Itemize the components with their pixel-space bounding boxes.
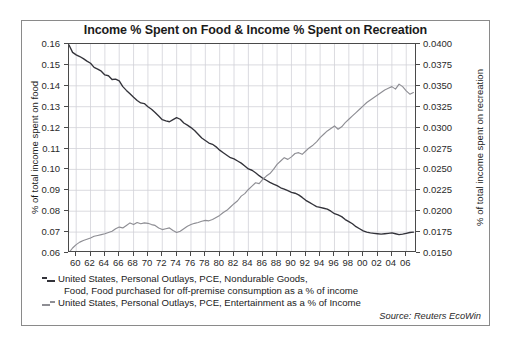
x-axis-tick-label: 06 (400, 257, 411, 268)
x-axis-tick-label: 62 (84, 257, 95, 268)
x-axis-tick (133, 252, 134, 256)
y-axis-left-tick (64, 252, 68, 253)
y-axis-left-tick-label: 0.10 (42, 163, 61, 174)
y-axis-right-title: % of total income spent on recreation (472, 43, 486, 252)
x-axis-tick-label: 02 (371, 257, 382, 268)
x-axis-tick (75, 252, 76, 256)
y-axis-left-tick (64, 231, 68, 232)
x-axis-tick-label: 98 (343, 257, 354, 268)
y-axis-right-tick (416, 148, 420, 149)
legend-swatch-food-icon (42, 274, 55, 286)
y-axis-right-tick (416, 168, 420, 169)
y-axis-left-tick-label: 0.13 (42, 100, 61, 111)
y-axis-left-tick-label: 0.06 (42, 247, 61, 258)
y-axis-left-tick-label: 0.11 (42, 142, 60, 153)
y-axis-right-tick (416, 64, 420, 65)
plot-area (68, 43, 416, 252)
y-axis-right-tick (416, 231, 420, 232)
x-axis-tick-label: 70 (142, 257, 153, 268)
x-axis-tick-label: 92 (299, 257, 310, 268)
x-axis-tick-label: 94 (314, 257, 325, 268)
x-axis-tick-label: 72 (156, 257, 167, 268)
y-axis-right-tick (416, 252, 420, 253)
y-axis-left-tick (64, 43, 68, 44)
y-axis-left-tick (64, 106, 68, 107)
x-axis-tick-label: 96 (328, 257, 339, 268)
x-axis-tick (90, 252, 91, 256)
x-axis-tick (391, 252, 392, 256)
legend-label-food-line1: United States, Personal Outlays, PCE, No… (58, 273, 308, 284)
y-axis-right-tick (416, 106, 420, 107)
y-axis-right-tick-label: 0.0200 (423, 205, 452, 216)
y-axis-left-tick-label: 0.09 (42, 184, 61, 195)
y-axis-left-tick-label: 0.07 (42, 226, 61, 237)
x-axis-tick (348, 252, 349, 256)
x-axis-tick (377, 252, 378, 256)
x-axis-tick-label: 80 (213, 257, 224, 268)
y-axis-right-tick-label: 0.0350 (423, 79, 452, 90)
x-axis-tick (290, 252, 291, 256)
x-axis-tick-label: 04 (386, 257, 397, 268)
y-axis-right-tick (416, 43, 420, 44)
x-axis-tick-label: 86 (256, 257, 267, 268)
x-axis-tick (204, 252, 205, 256)
x-axis-tick-label: 66 (113, 257, 124, 268)
y-axis-left-tick (64, 148, 68, 149)
x-axis-tick (147, 252, 148, 256)
y-axis-left-tick (64, 64, 68, 65)
legend-label-recreation: United States, Personal Outlays, PCE, En… (58, 297, 361, 309)
y-axis-right-tick-label: 0.0175 (423, 226, 452, 237)
y-axis-left-tick-label: 0.08 (42, 205, 61, 216)
x-axis-tick (305, 252, 306, 256)
x-axis-tick (104, 252, 105, 256)
legend-label-food-line2: Food, Food purchased for off-premise con… (58, 285, 358, 297)
horizontal-gridlines (69, 65, 416, 232)
y-axis-left-tick-label: 0.14 (42, 79, 61, 90)
x-axis-tick (233, 252, 234, 256)
x-axis-tick-label: 68 (127, 257, 138, 268)
x-axis-tick-label: 60 (70, 257, 81, 268)
x-axis-tick-label: 78 (199, 257, 210, 268)
x-axis-tick (405, 252, 406, 256)
y-axis-left-title-text: % of total income spent on food (30, 81, 41, 214)
x-axis-tick-label: 84 (242, 257, 253, 268)
plot-svg (69, 44, 416, 252)
y-axis-right-tick (416, 85, 420, 86)
x-axis-tick (362, 252, 363, 256)
x-axis-tick (219, 252, 220, 256)
y-axis-left-tick (64, 127, 68, 128)
y-axis-right-tick-label: 0.0325 (423, 100, 452, 111)
y-axis-right-tick-label: 0.0250 (423, 163, 452, 174)
series-line-food (69, 45, 413, 235)
y-axis-left-tick (64, 189, 68, 190)
y-axis-right-tick-label: 0.0150 (423, 247, 452, 258)
y-axis-right-tick (416, 210, 420, 211)
y-axis-left-tick-label: 0.15 (42, 58, 61, 69)
y-axis-right-tick-label: 0.0375 (423, 58, 452, 69)
y-axis-left-title: % of total income spent on food (28, 43, 42, 252)
legend-label-recreation-line1: United States, Personal Outlays, PCE, En… (58, 297, 361, 308)
y-axis-right-tick (416, 189, 420, 190)
y-axis-left-tick-label: 0.12 (42, 121, 61, 132)
y-axis-right-tick-label: 0.0400 (423, 38, 452, 49)
chart-title: Income % Spent on Food & Income % Spent … (22, 23, 489, 37)
source-note: Source: Reuters EcoWin (379, 311, 481, 321)
x-axis-tick-label: 74 (170, 257, 181, 268)
chart-frame: Income % Spent on Food & Income % Spent … (21, 20, 490, 326)
legend-swatch-recreation-icon (42, 298, 55, 310)
x-axis-tick-label: 00 (357, 257, 368, 268)
chart-legend: United States, Personal Outlays, PCE, No… (42, 273, 472, 311)
x-axis-tick-label: 76 (185, 257, 196, 268)
x-axis-tick (118, 252, 119, 256)
x-axis-tick (276, 252, 277, 256)
y-axis-left-tick (64, 210, 68, 211)
x-axis-tick-label: 90 (285, 257, 296, 268)
y-axis-left-tick (64, 168, 68, 169)
y-axis-left-tick-label: 0.16 (42, 38, 61, 49)
legend-label-food: United States, Personal Outlays, PCE, No… (58, 273, 358, 296)
y-axis-right-tick-label: 0.0300 (423, 121, 452, 132)
x-axis-tick-label: 82 (228, 257, 239, 268)
y-axis-left-tick (64, 85, 68, 86)
y-axis-right-tick-label: 0.0275 (423, 142, 452, 153)
y-axis-right-title-text: % of total income spent on recreation (474, 69, 485, 226)
